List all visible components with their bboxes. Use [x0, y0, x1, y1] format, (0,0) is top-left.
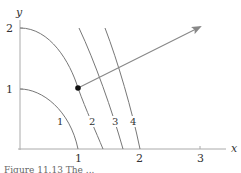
level-curve-4 [105, 28, 140, 149]
level-curve-diagram: y x 2 1 1 2 3 1 2 3 4 [0, 0, 241, 173]
y-tick-2-label: 2 [6, 22, 13, 35]
x-axis-label: x [231, 142, 238, 155]
gradient-arrow [78, 27, 200, 88]
level-curve-4-label: 4 [130, 116, 136, 127]
x-tick-2-label: 2 [136, 152, 143, 165]
level-curve-2 [20, 28, 103, 149]
level-curve-3-label: 3 [112, 116, 118, 127]
marked-point [75, 85, 81, 91]
x-tick-1-label: 1 [75, 152, 82, 165]
level-curve-2-label: 2 [89, 116, 95, 127]
y-tick-1-label: 1 [6, 83, 13, 96]
y-axis-label: y [15, 6, 23, 19]
level-curve-3 [79, 28, 123, 149]
level-curve-1 [20, 89, 78, 149]
x-tick-3-label: 3 [197, 152, 204, 165]
figure-caption: Figure 11.13 The ... [4, 165, 94, 173]
level-curve-1-label: 1 [57, 116, 63, 127]
